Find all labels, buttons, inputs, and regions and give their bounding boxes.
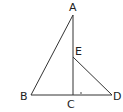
segment-ab	[31, 15, 73, 95]
geometry-diagram: A B C D E	[0, 0, 123, 112]
marker-dot	[80, 92, 82, 94]
label-c: C	[67, 98, 75, 111]
label-a: A	[69, 1, 77, 14]
label-d: D	[113, 90, 121, 103]
label-e: E	[75, 45, 82, 58]
segment-ed	[73, 57, 112, 95]
label-b: B	[20, 90, 28, 103]
